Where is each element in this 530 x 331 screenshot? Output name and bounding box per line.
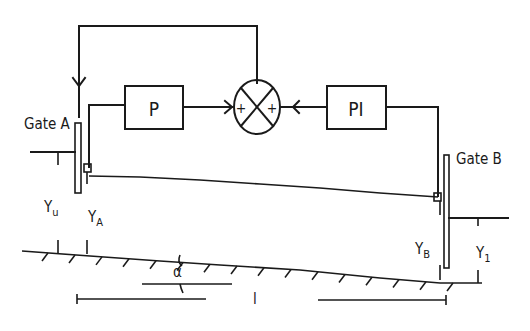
gate-a-label: Gate A — [24, 115, 71, 133]
bed-hatch-mark — [42, 253, 48, 261]
pi-label: PI — [348, 98, 363, 120]
plus-sign-left: + — [236, 100, 247, 116]
water-surface — [84, 164, 441, 280]
gate-a: Gate A — [24, 115, 81, 193]
summing-junction: + + — [234, 80, 280, 134]
p-block: P — [125, 86, 183, 129]
bed-hatch-mark — [285, 269, 291, 277]
upstream-water-level — [31, 152, 75, 254]
gate-b-label: Gate B — [456, 150, 502, 168]
pi-to-sum-line — [280, 101, 327, 113]
bed-hatch-mark — [393, 280, 399, 288]
bed-hatch-mark — [312, 272, 318, 280]
y1-label: Y1 — [475, 244, 491, 265]
ya-label: YA — [87, 208, 103, 229]
p-label: P — [149, 98, 159, 120]
feedback-line — [73, 26, 257, 117]
yb-label: YB — [414, 240, 430, 261]
reach-length-dimension: l — [77, 290, 446, 308]
bed-hatch-mark — [366, 277, 372, 285]
plus-sign-right: + — [267, 100, 278, 116]
p-to-sum-line — [183, 101, 232, 113]
bed-hatch-mark — [420, 282, 426, 290]
sensor-a-line — [89, 105, 125, 167]
bed-hatch-mark — [447, 283, 453, 291]
bed-hatch-mark — [96, 257, 102, 265]
bed-hatching — [42, 253, 453, 291]
canal-control-diagram: P + + PI Gate A Gate B — [0, 0, 530, 331]
bed-hatch-mark — [69, 255, 75, 263]
bed-hatch-mark — [258, 268, 264, 276]
bed-hatch-mark — [231, 266, 237, 274]
channel-bed — [22, 251, 482, 291]
bed-hatch-mark — [204, 264, 210, 272]
length-label: l — [253, 290, 257, 308]
bed-hatch-mark — [339, 275, 345, 283]
gate-b: Gate B — [444, 150, 502, 268]
alpha-label: α — [173, 263, 182, 281]
yu-label: Yu — [43, 198, 59, 219]
pi-block: PI — [327, 86, 386, 129]
bed-hatch-mark — [123, 259, 129, 267]
sensor-b-line — [386, 107, 438, 196]
bed-hatch-mark — [150, 261, 156, 269]
